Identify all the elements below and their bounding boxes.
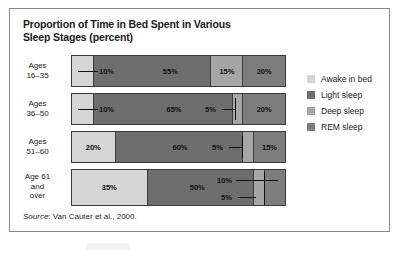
row-label-line: and [15, 182, 60, 192]
leader-line [242, 136, 243, 158]
legend-label: Light sleep [321, 90, 362, 100]
segment-value: 50% [190, 183, 205, 192]
bar-segment-awake: 20% [72, 132, 115, 162]
bar-segment-deep: 15% [210, 56, 242, 86]
row-label-line: Ages [15, 61, 60, 71]
legend-swatch-icon [307, 75, 315, 83]
chart-title: Proportion of Time in Bed Spent in Vario… [23, 18, 313, 44]
segment-callout-awake: 10% [99, 105, 114, 114]
leader-line [235, 98, 236, 120]
stacked-bar: 20% 60% 15% 5% [71, 131, 286, 163]
leader-line [78, 109, 98, 110]
row-label-line: Ages [15, 137, 60, 147]
legend-label: Awake in bed [321, 74, 372, 84]
legend-item-rem-sleep: REM sleep [307, 119, 391, 135]
legend-swatch-icon [307, 107, 315, 115]
row-label: Ages 51–60 [15, 137, 60, 156]
bar-segment-awake: 35% [72, 170, 147, 205]
bar-segment-rem [264, 170, 285, 205]
segment-callout-awake: 10% [99, 67, 114, 76]
bar-segment-rem: 20% [242, 94, 285, 124]
source-text: : Van Cauter et al., 2000. [48, 212, 136, 221]
chart-row: Age 61 and over 35% 50% 10% 5% [10, 167, 391, 209]
stacked-bar: 65% 20% 10% 5% [71, 93, 286, 125]
row-label-line: 36–50 [15, 109, 60, 119]
chart-title-line-1: Proportion of Time in Bed Spent in Vario… [23, 18, 313, 31]
legend-swatch-icon [307, 123, 315, 131]
row-label-line: Age 61 [15, 172, 60, 182]
source-prefix: Source [23, 212, 48, 221]
leader-line [238, 197, 256, 198]
row-label-line: Ages [15, 99, 60, 109]
segment-callout-deep: 5% [205, 105, 216, 114]
bar-segment-light: 60% [115, 132, 243, 162]
segment-callout-deep: 5% [212, 143, 223, 152]
legend-label: Deep sleep [321, 106, 364, 116]
row-label: Age 61 and over [15, 172, 60, 201]
row-label: Ages 16–35 [15, 61, 60, 80]
segment-value: 20% [257, 105, 272, 114]
segment-value: 20% [257, 67, 272, 76]
segment-value: 35% [102, 183, 117, 192]
page-artifact [86, 243, 130, 250]
segment-callout-deep: 5% [221, 193, 232, 202]
stacked-bar: 55% 15% 20% 10% [71, 55, 286, 87]
chart-title-line-2: Sleep Stages (percent) [23, 31, 313, 44]
segment-value: 65% [167, 105, 182, 114]
segment-value: 20% [86, 143, 101, 152]
leader-line [78, 71, 98, 72]
row-label-line: 16–35 [15, 71, 60, 81]
segment-value: 15% [219, 67, 234, 76]
leader-line [229, 147, 243, 148]
figure-panel: Proportion of Time in Bed Spent in Vario… [9, 8, 390, 232]
row-label-line: 51–60 [15, 147, 60, 157]
segment-value: 15% [262, 143, 277, 152]
bar-segment-deep [242, 132, 253, 162]
stacked-bar: 35% 50% 10% 5% [71, 169, 286, 206]
row-label: Ages 36–50 [15, 99, 60, 118]
legend-item-deep-sleep: Deep sleep [307, 103, 391, 119]
legend-item-light-sleep: Light sleep [307, 87, 391, 103]
legend: Awake in bed Light sleep Deep sleep REM … [307, 71, 391, 135]
bar-segment-rem: 20% [242, 56, 285, 86]
leader-line [236, 180, 278, 181]
row-label-line: over [15, 191, 60, 201]
legend-label: REM sleep [321, 122, 363, 132]
segment-value: 60% [172, 143, 187, 152]
leader-line [222, 109, 236, 110]
bar-segment-rem: 15% [253, 132, 285, 162]
bar-segment-deep [253, 170, 264, 205]
segment-value: 55% [163, 67, 178, 76]
leader-line [264, 172, 265, 205]
source-note: Source: Van Cauter et al., 2000. [23, 212, 137, 221]
legend-item-awake-in-bed: Awake in bed [307, 71, 391, 87]
segment-callout-rem: 10% [217, 176, 232, 185]
legend-swatch-icon [307, 91, 315, 99]
bar-segment-light: 50% [147, 170, 254, 205]
